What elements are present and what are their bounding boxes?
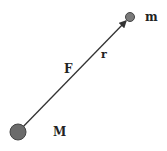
small-mass-label: m — [145, 10, 158, 24]
large-mass-circle — [10, 124, 26, 140]
large-mass-label: M — [53, 125, 66, 139]
distance-label: r — [101, 48, 107, 61]
gravitation-diagram: F r m M — [0, 0, 167, 151]
small-mass-circle — [126, 13, 135, 22]
force-vector-arrow — [18, 21, 126, 132]
force-label: F — [64, 62, 73, 76]
